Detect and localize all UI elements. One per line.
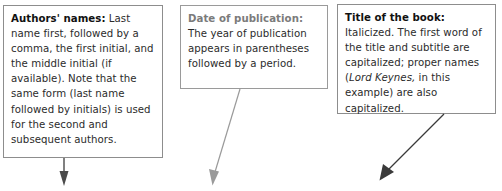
figure-canvas: Authors' names: Last name first, followe… [0, 0, 502, 191]
callout-authors-names-text: Last name first, followed by a comma, th… [11, 13, 154, 145]
callout-authors-names-lead: Authors' names: [11, 13, 106, 24]
arrow-authors-icon [60, 158, 69, 186]
callout-date-of-publication-text: The year of publication appears in paren… [188, 28, 309, 69]
callout-title-of-the-book-italic-example: Lord Keynes, [349, 72, 415, 83]
callout-authors-names: Authors' names: Last name first, followe… [3, 5, 163, 158]
callout-date-of-publication: Date of publication:The year of publicat… [180, 5, 328, 89]
callout-title-of-the-book: Title of the book: Italicized. The first… [337, 4, 496, 114]
arrow-title-icon [380, 114, 445, 181]
callout-title-of-the-book-body: Title of the book: Italicized. The first… [338, 5, 495, 120]
callout-authors-names-body: Authors' names: Last name first, followe… [4, 6, 162, 151]
callout-title-of-the-book-lead: Title of the book: [345, 12, 445, 23]
callout-date-of-publication-lead: Date of publication: [188, 11, 320, 26]
callout-date-of-publication-body: Date of publication:The year of publicat… [181, 6, 327, 75]
arrow-date-icon [209, 89, 240, 186]
